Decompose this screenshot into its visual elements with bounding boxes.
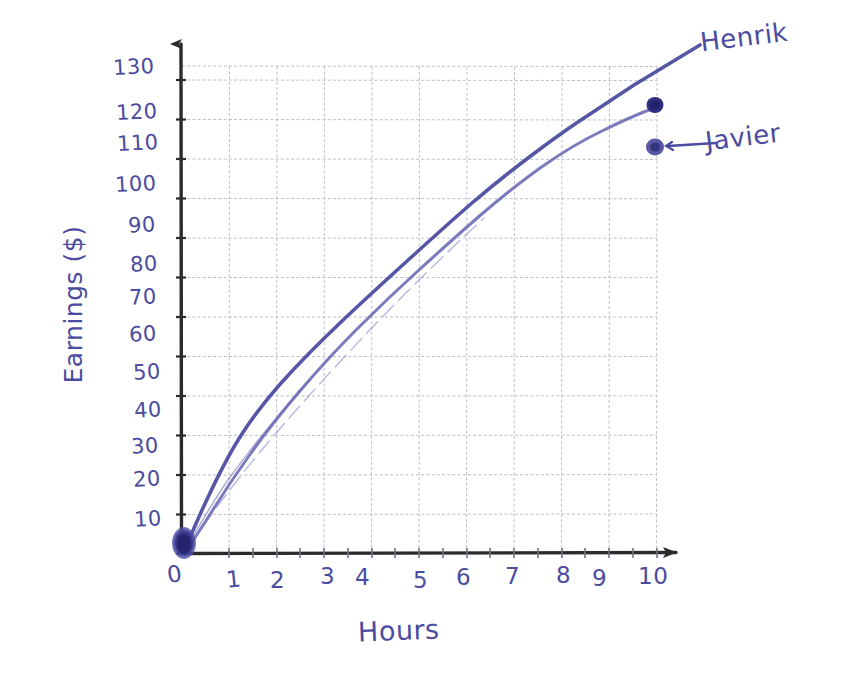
y-tick-label-90: 90 bbox=[127, 212, 156, 237]
datapoint-henrik-endpoint bbox=[647, 97, 664, 113]
x-tick-label-2: 2 bbox=[270, 567, 285, 593]
x-tick-label-7: 7 bbox=[505, 563, 520, 589]
x-tick-label-9: 9 bbox=[592, 565, 607, 591]
x-tick-label-3: 3 bbox=[320, 563, 335, 589]
grid-lines-vertical bbox=[229, 66, 657, 552]
x-axis-title: Hours bbox=[357, 614, 440, 648]
datapoint-javier-endpoint bbox=[646, 139, 664, 156]
x-tick-label-5: 5 bbox=[413, 567, 428, 593]
y-tick-label-30: 30 bbox=[130, 433, 159, 458]
y-tick-label-10: 10 bbox=[133, 506, 162, 531]
handdrawn-chart-canvas: 130 120 110 100 90 80 70 60 50 40 30 20 … bbox=[0, 0, 865, 692]
x-tick-label-1: 1 bbox=[225, 565, 243, 592]
y-tick-label-100: 100 bbox=[114, 171, 157, 197]
y-tick-label-20: 20 bbox=[132, 466, 161, 491]
y-tick-label-80: 80 bbox=[129, 251, 158, 276]
y-tick-label-60: 60 bbox=[128, 321, 157, 346]
origin-ink-blob bbox=[172, 527, 196, 559]
x-tick-label-4: 4 bbox=[355, 564, 370, 590]
x-tick-label-6: 6 bbox=[456, 564, 471, 590]
y-tick-label-40: 40 bbox=[133, 397, 162, 422]
y-tick-label-50: 50 bbox=[132, 359, 161, 384]
x-tick-label-10: 10 bbox=[638, 563, 668, 589]
y-tick-label-120: 120 bbox=[115, 99, 158, 125]
x-tick-label-8: 8 bbox=[556, 562, 571, 588]
y-tick-label-70: 70 bbox=[128, 284, 157, 309]
y-tick-label-130: 130 bbox=[112, 54, 155, 80]
y-axis-title: Earnings ($) bbox=[59, 180, 88, 430]
y-tick-label-110: 110 bbox=[116, 130, 159, 156]
